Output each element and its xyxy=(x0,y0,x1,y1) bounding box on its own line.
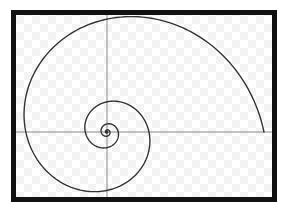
diagram-svg xyxy=(0,0,286,212)
spiral-diagram xyxy=(0,0,286,212)
checker-background xyxy=(16,15,272,197)
